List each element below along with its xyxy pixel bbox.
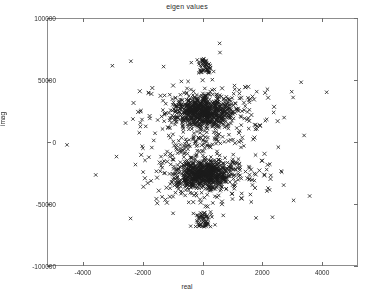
eigenvalue-scatter-figure: eigen values -4000-2000020004000-100000-… [0,0,374,303]
x-axis-tick [203,18,204,22]
x-axis-tick-label: 4000 [315,269,329,276]
x-axis-tick [83,18,84,22]
y-axis-tick [354,80,358,81]
x-axis-tick [262,18,263,22]
x-axis-tick-label: -4000 [75,269,92,276]
y-axis-tick [354,266,358,267]
x-axis-tick [83,262,84,266]
x-axis-tick-label: 2000 [255,269,269,276]
x-axis-tick [143,18,144,22]
x-axis-tick-label: 0 [201,269,205,276]
x-axis-tick [262,262,263,266]
y-axis-tick [354,18,358,19]
plot-area [47,18,358,266]
y-axis-tick [354,204,358,205]
y-axis-tick-label: 50000 [38,77,56,84]
page-title: eigen values [0,3,374,10]
x-axis-tick [322,262,323,266]
y-axis-tick [354,142,358,143]
y-axis-tick-label: -100000 [32,263,56,270]
scatter-plot-canvas [48,19,358,266]
x-axis-tick [143,262,144,266]
x-axis-tick [322,18,323,22]
y-axis-tick-label: 0 [52,139,56,146]
y-axis-tick-label: 100000 [34,15,56,22]
x-axis-label: real [0,283,374,290]
y-axis-label: imag [0,112,6,126]
x-axis-tick-label: -2000 [134,269,151,276]
y-axis-tick-label: -50000 [36,201,56,208]
y-axis-tick [47,142,51,143]
x-axis-tick [203,262,204,266]
